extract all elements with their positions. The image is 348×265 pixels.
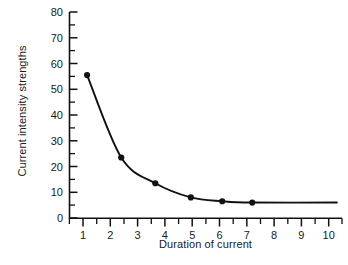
figure-container: 0 10 20 30 40 50 60 70 80	[0, 0, 348, 265]
data-point-marker	[188, 194, 194, 200]
y-tick-label: 80	[51, 6, 63, 18]
y-tick-label: 10	[51, 186, 63, 198]
figure-caption-partial	[2, 256, 152, 265]
y-tick-label: 20	[51, 161, 63, 173]
data-point-marker	[84, 72, 90, 78]
data-series-curve	[87, 75, 337, 203]
y-tick-label: 70	[51, 32, 63, 44]
data-point-marker	[118, 154, 124, 160]
y-axis-major-ticks	[70, 12, 78, 218]
y-tick-label: 40	[51, 109, 63, 121]
axis-lines	[69, 12, 342, 219]
data-point-markers	[84, 72, 255, 206]
y-tick-label: 30	[51, 135, 63, 147]
y-tick-label: 60	[51, 58, 63, 70]
y-axis-tick-labels: 0 10 20 30 40 50 60 70 80	[51, 6, 63, 224]
data-point-marker	[152, 180, 158, 186]
data-point-marker	[249, 199, 255, 205]
y-tick-label: 0	[57, 212, 63, 224]
chart-plot-area: 0 10 20 30 40 50 60 70 80	[0, 0, 348, 265]
y-tick-label: 50	[51, 83, 63, 95]
x-axis-label: Duration of current	[69, 238, 342, 250]
data-point-marker	[219, 198, 225, 204]
y-axis-label: Current intensity strengths	[16, 1, 28, 221]
